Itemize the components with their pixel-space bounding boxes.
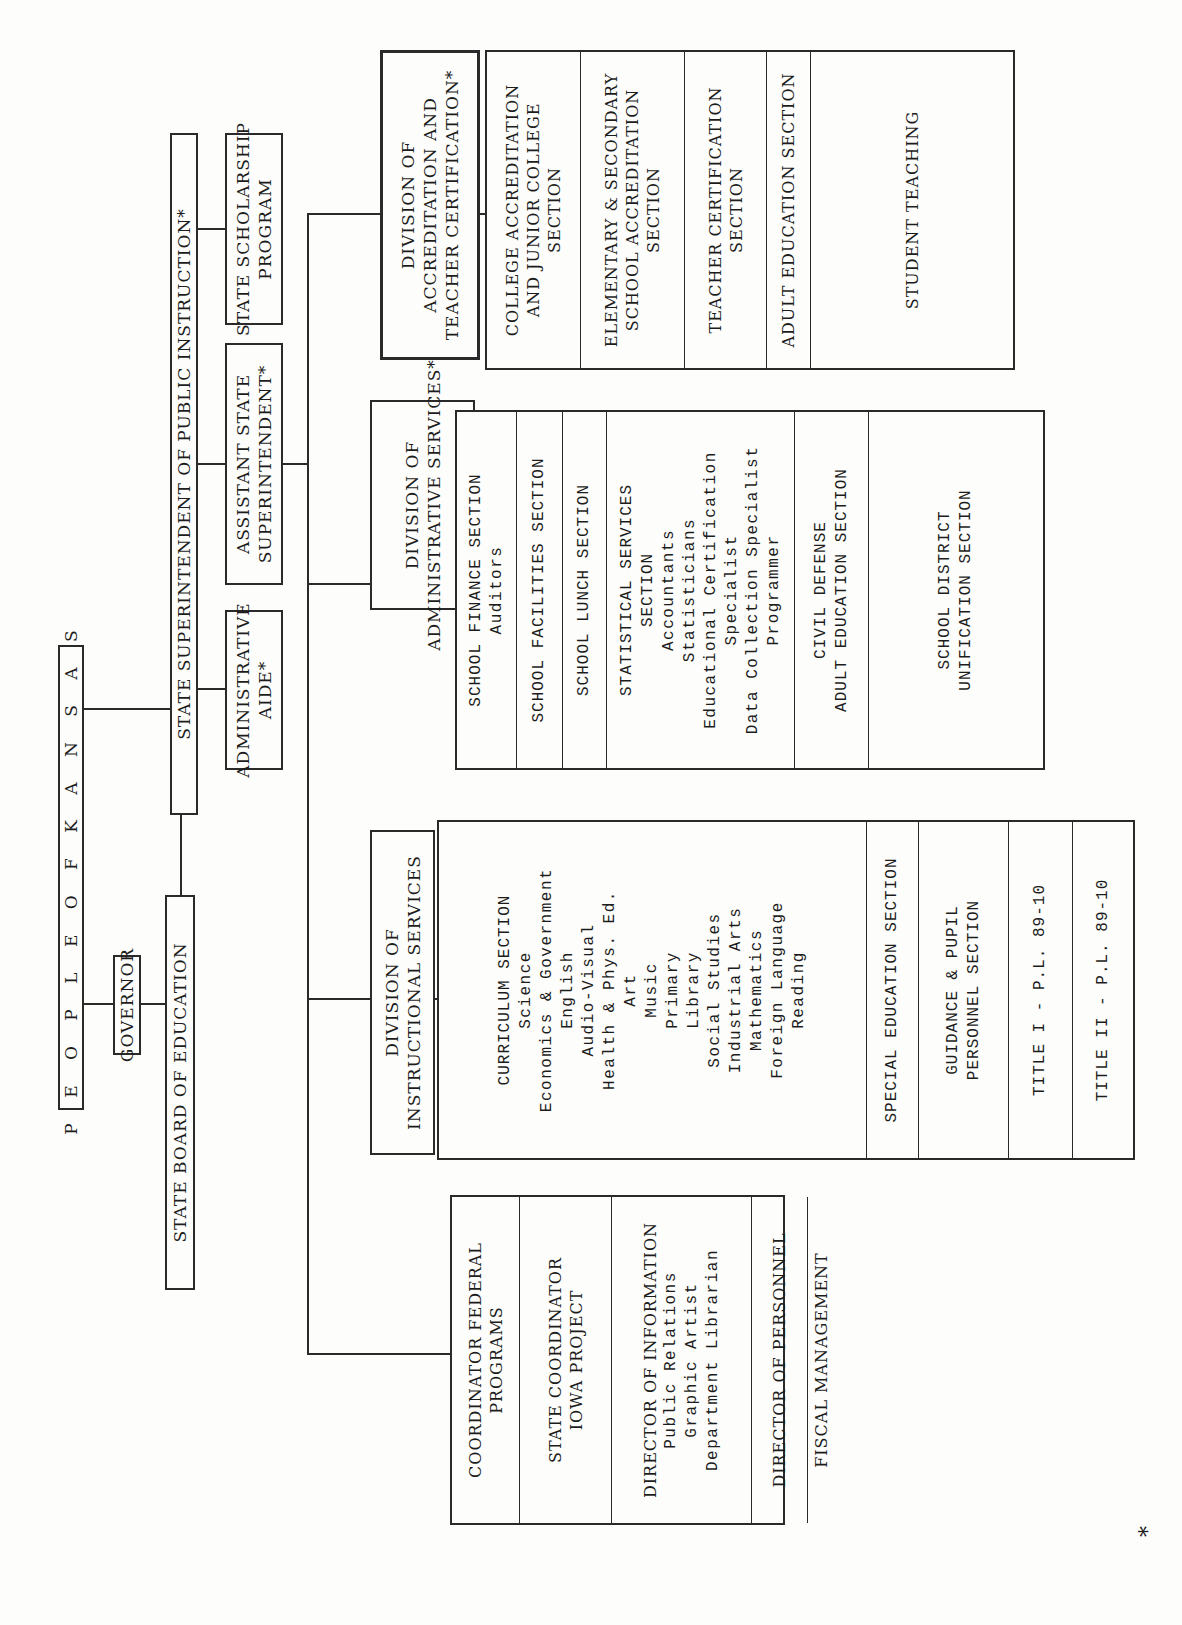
staff-line: Data Collection Specialist bbox=[743, 446, 764, 735]
org-chart: P E O P L E O F K A N S A S GOVERNOR STA… bbox=[0, 0, 1182, 1625]
accreditation-sections: COLLEGE ACCREDITATION AND JUNIOR COLLEGE… bbox=[485, 50, 1015, 370]
administrative-sections: SCHOOL FINANCE SECTION Auditors SCHOOL F… bbox=[455, 410, 1045, 770]
unit-line: PROGRAMS bbox=[486, 1306, 507, 1414]
section-line: SCHOOL LUNCH SECTION bbox=[574, 484, 595, 696]
unit-line: DIRECTOR OF INFORMATION bbox=[640, 1222, 661, 1498]
connector-line bbox=[180, 815, 182, 895]
staff-line: Graphic Artist bbox=[682, 1282, 703, 1437]
direct-units: COORDINATOR FEDERAL PROGRAMS STATE COORD… bbox=[450, 1195, 785, 1525]
unit-coordinator-federal-programs: COORDINATOR FEDERAL PROGRAMS bbox=[452, 1197, 520, 1523]
section-line: SCHOOL ACCREDITATION bbox=[622, 89, 643, 332]
section-elementary-secondary: ELEMENTARY & SECONDARY SCHOOL ACCREDITAT… bbox=[581, 52, 685, 368]
staff-line: Library bbox=[684, 951, 705, 1029]
section-line: ADULT EDUCATION SECTION bbox=[832, 468, 853, 712]
section-line: STUDENT TEACHING bbox=[902, 111, 923, 310]
assistant-supt-line: SUPERINTENDENT* bbox=[254, 365, 276, 564]
connector-line bbox=[140, 1003, 165, 1005]
scholarship-box: STATE SCHOLARSHIP PROGRAM bbox=[225, 133, 283, 325]
unit-fiscal-management: FISCAL MANAGEMENT bbox=[808, 1197, 835, 1523]
section-adult-education: ADULT EDUCATION SECTION bbox=[767, 52, 811, 368]
connector-line bbox=[197, 228, 225, 230]
section-line: STATISTICAL SERVICES bbox=[617, 484, 638, 696]
governor-box: GOVERNOR bbox=[113, 955, 141, 1055]
section-line: ADULT EDUCATION SECTION bbox=[778, 72, 799, 347]
staff-line: Statisticians bbox=[680, 518, 701, 662]
connector-line bbox=[307, 213, 380, 215]
section-student-teaching: STUDENT TEACHING bbox=[811, 52, 1013, 368]
staff-line: Foreign Language bbox=[768, 901, 789, 1079]
section-line: SCHOOL DISTRICT bbox=[935, 510, 956, 669]
staff-line: Science bbox=[516, 951, 537, 1029]
staff-line: Audio-Visual bbox=[579, 923, 600, 1056]
staff-line: Art bbox=[621, 973, 642, 1006]
section-school-district-unification: SCHOOL DISTRICT UNIFICATION SECTION bbox=[869, 412, 1043, 768]
section-line: TITLE II - P.L. 89-10 bbox=[1093, 879, 1114, 1102]
section-title-ii: TITLE II - P.L. 89-10 bbox=[1073, 822, 1133, 1158]
unit-line: STATE COORDINATOR bbox=[545, 1257, 566, 1463]
connector-line bbox=[307, 1353, 450, 1355]
section-school-lunch: SCHOOL LUNCH SECTION bbox=[563, 412, 607, 768]
section-title-i: TITLE I - P.L. 89-10 bbox=[1009, 822, 1073, 1158]
section-line: TEACHER CERTIFICATION bbox=[705, 86, 726, 333]
admin-aide-box: ADMINISTRATIVE AIDE* bbox=[225, 610, 283, 770]
section-line: ELEMENTARY & SECONDARY bbox=[601, 73, 622, 347]
assistant-supt-line: ASSISTANT STATE bbox=[232, 374, 254, 554]
staff-line: Health & Phys. Ed. bbox=[600, 890, 621, 1090]
section-line: SECTION bbox=[638, 553, 659, 627]
unit-line: COORDINATOR FEDERAL bbox=[465, 1242, 486, 1478]
staff-line: Economics & Government bbox=[537, 868, 558, 1112]
section-line: SPECIAL EDUCATION SECTION bbox=[882, 857, 903, 1122]
unit-line: DIRECTOR OF PERSONNEL bbox=[769, 1232, 790, 1487]
connector-line bbox=[307, 583, 370, 585]
unit-line: FISCAL MANAGEMENT bbox=[811, 1252, 832, 1468]
division-title-line: INSTRUCTIONAL SERVICES bbox=[403, 855, 425, 1130]
division-accreditation-box: DIVISION OF ACCREDITATION AND TEACHER CE… bbox=[380, 50, 480, 360]
staff-line: Industrial Arts bbox=[726, 907, 747, 1074]
staff-line: Social Studies bbox=[705, 912, 726, 1067]
scholarship-line: PROGRAM bbox=[254, 178, 276, 279]
assistant-supt-box: ASSISTANT STATE SUPERINTENDENT* bbox=[225, 343, 283, 585]
division-title-line: DIVISION OF bbox=[401, 441, 423, 570]
connector-line bbox=[83, 708, 170, 710]
instructional-sections: CURRICULUM SECTION Science Economics & G… bbox=[437, 820, 1135, 1160]
staff-line: Primary bbox=[663, 951, 684, 1029]
section-line: SCHOOL FINANCE SECTION bbox=[466, 473, 487, 706]
connector-line bbox=[283, 463, 308, 465]
footnote-asterisk: * bbox=[1135, 1526, 1160, 1537]
unit-line: IOWA PROJECT bbox=[566, 1290, 587, 1431]
admin-aide-line: AIDE* bbox=[254, 661, 276, 720]
section-line: COLLEGE ACCREDITATION bbox=[502, 84, 523, 336]
section-special-education: SPECIAL EDUCATION SECTION bbox=[867, 822, 919, 1158]
section-line: SCHOOL FACILITIES SECTION bbox=[529, 457, 550, 722]
section-school-finance: SCHOOL FINANCE SECTION Auditors bbox=[457, 412, 517, 768]
section-teacher-certification: TEACHER CERTIFICATION SECTION bbox=[685, 52, 767, 368]
superintendent-label: STATE SUPERINTENDENT OF PUBLIC INSTRUCTI… bbox=[173, 208, 195, 740]
section-line: TITLE I - P.L. 89-10 bbox=[1030, 884, 1051, 1096]
division-instructional-box: DIVISION OF INSTRUCTIONAL SERVICES bbox=[370, 830, 435, 1155]
section-school-facilities: SCHOOL FACILITIES SECTION bbox=[517, 412, 563, 768]
division-title-line: DIVISION OF bbox=[397, 141, 419, 270]
superintendent-box: STATE SUPERINTENDENT OF PUBLIC INSTRUCTI… bbox=[170, 133, 198, 815]
unit-director-of-information: DIRECTOR OF INFORMATION Public Relations… bbox=[612, 1197, 752, 1523]
section-college-accreditation: COLLEGE ACCREDITATION AND JUNIOR COLLEGE… bbox=[487, 52, 581, 368]
section-statistical-services: STATISTICAL SERVICES SECTION Accountants… bbox=[607, 412, 795, 768]
section-line: CIVIL DEFENSE bbox=[811, 521, 832, 659]
section-line: CURRICULUM SECTION bbox=[495, 895, 516, 1086]
staff-line: Reading bbox=[789, 951, 810, 1029]
connector-line bbox=[197, 688, 225, 690]
section-line: GUIDANCE & PUPIL bbox=[943, 905, 964, 1075]
section-civil-defense: CIVIL DEFENSE ADULT EDUCATION SECTION bbox=[795, 412, 869, 768]
staff-line: Auditors bbox=[487, 546, 508, 635]
connector-line bbox=[197, 463, 225, 465]
staff-line: Educational Certification bbox=[701, 451, 722, 729]
staff-line: Accountants bbox=[659, 529, 680, 651]
connector-line bbox=[307, 998, 370, 1000]
section-line: SECTION bbox=[544, 167, 565, 253]
section-line: PERSONNEL SECTION bbox=[964, 900, 985, 1080]
section-guidance: GUIDANCE & PUPIL PERSONNEL SECTION bbox=[919, 822, 1009, 1158]
state-board-label: STATE BOARD OF EDUCATION bbox=[169, 942, 191, 1242]
scholarship-line: STATE SCHOLARSHIP bbox=[232, 122, 254, 336]
staff-line: Music bbox=[642, 962, 663, 1018]
section-line: AND JUNIOR COLLEGE bbox=[523, 103, 544, 318]
section-line: UNIFICATION SECTION bbox=[956, 489, 977, 690]
